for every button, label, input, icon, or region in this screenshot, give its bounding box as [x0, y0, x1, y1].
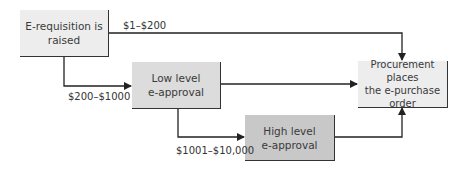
edge-small-arrow	[108, 33, 402, 60]
node-procurement-places-order: Procurement places the e-purchase order	[358, 61, 448, 108]
node-text: Procurement places	[358, 58, 447, 84]
node-text: e-approval	[148, 85, 204, 99]
edge-label-large: $1001–$10,000	[176, 145, 254, 157]
node-low-level-e-approval: Low level e-approval	[132, 62, 221, 109]
edge-medium-arrow	[64, 56, 131, 86]
node-text: the e-purchase	[358, 84, 447, 97]
node-e-requisition-raised: E-requisition is raised	[20, 10, 109, 57]
node-text: High level	[261, 124, 317, 138]
edge-large-arrow	[178, 108, 244, 137]
node-text: E-requisition is	[25, 19, 102, 33]
edge-label-small: $1–$200	[123, 20, 166, 32]
node-text: order	[358, 97, 447, 110]
node-text: Low level	[148, 71, 204, 85]
edge-high-to-end-arrow	[334, 108, 402, 137]
node-text: raised	[25, 33, 102, 47]
edge-label-medium: $200–$1000	[68, 91, 130, 103]
node-high-level-e-approval: High level e-approval	[245, 115, 335, 161]
node-text: e-approval	[261, 138, 317, 152]
